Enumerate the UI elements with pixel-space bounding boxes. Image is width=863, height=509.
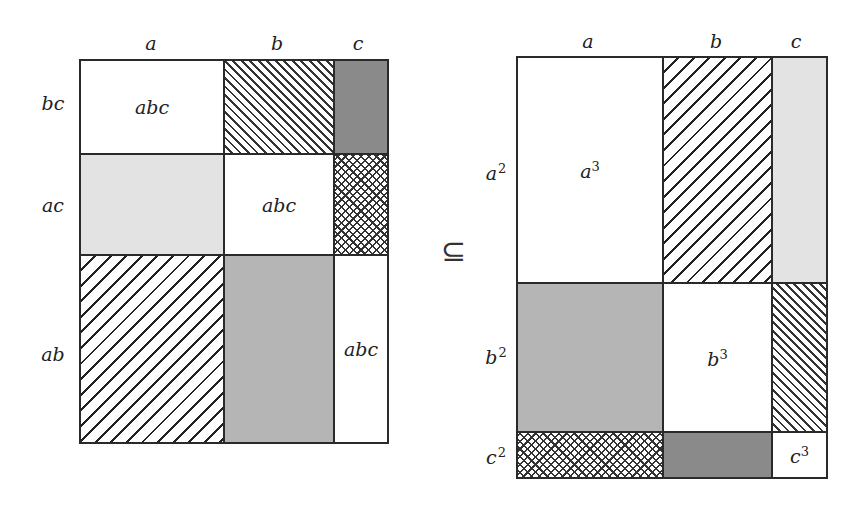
right-col-label-b: b	[710, 32, 722, 51]
cell-label: a3	[580, 159, 600, 182]
base: c	[790, 445, 801, 467]
left-col-label-a: a	[145, 34, 156, 53]
left-cell-bc-c	[333, 59, 389, 155]
base: a	[486, 162, 497, 184]
cell-label: b3	[707, 346, 727, 369]
right-row-label-c2: c2	[486, 446, 506, 467]
left-col-label-b: b	[271, 34, 283, 53]
left-row-label-ab: ab	[41, 345, 65, 364]
right-cell-b2-c	[771, 282, 828, 433]
right-row-label-a2: a2	[486, 162, 507, 183]
left-cell-ac-b: abc	[223, 153, 335, 256]
left-cell-bc-a: abc	[79, 59, 225, 155]
left-cell-ac-a	[79, 153, 225, 256]
cell-label: abc	[135, 96, 169, 118]
left-cell-ab-a	[79, 254, 225, 444]
left-col-label-c: c	[353, 34, 364, 53]
left-cell-ab-c: abc	[333, 254, 389, 444]
right-cell-a2-b	[662, 56, 773, 284]
base: b	[707, 347, 719, 369]
exponent: 2	[498, 345, 506, 360]
left-cell-bc-b	[223, 59, 335, 155]
left-row-label-ac: ac	[42, 196, 64, 215]
right-cell-a2-a: a3	[516, 56, 664, 284]
subset-symbol: ⊆	[441, 236, 466, 266]
right-cell-a2-c	[771, 56, 828, 284]
base: b	[485, 346, 497, 368]
cell-label: abc	[262, 194, 296, 216]
cell-label: abc	[344, 338, 378, 360]
exponent: 3	[801, 444, 809, 459]
right-cell-b2-b: b3	[662, 282, 773, 433]
base: c	[486, 446, 497, 468]
right-cell-b2-a	[516, 282, 664, 433]
right-row-label-b2: b2	[485, 346, 506, 367]
left-cell-ab-b	[223, 254, 335, 444]
right-col-label-a: a	[582, 32, 593, 51]
left-row-label-bc: bc	[42, 94, 65, 113]
right-cell-c2-a	[516, 431, 664, 479]
left-cell-ac-c	[333, 153, 389, 256]
exponent: 3	[719, 346, 727, 361]
right-col-label-c: c	[791, 32, 802, 51]
base: a	[580, 160, 591, 182]
exponent: 2	[498, 445, 506, 460]
exponent: 2	[498, 161, 506, 176]
exponent: 3	[592, 159, 600, 174]
right-cell-c2-b	[662, 431, 773, 479]
cell-label: c3	[790, 444, 809, 467]
right-cell-c2-c: c3	[771, 431, 828, 479]
